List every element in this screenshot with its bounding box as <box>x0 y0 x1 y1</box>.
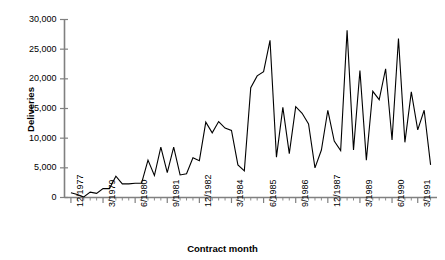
x-tick-label: 3/1979 <box>107 179 117 207</box>
x-tick-label: 3/1984 <box>235 179 245 207</box>
y-axis-title: Deliveries <box>25 70 36 150</box>
y-tick-label: 0 <box>51 192 56 202</box>
x-tick-label: 9/1981 <box>171 179 181 207</box>
chart-plot-area <box>0 0 445 260</box>
x-tick-label: 3/1989 <box>364 179 374 207</box>
x-tick-label: 12/1982 <box>203 174 213 207</box>
y-tick-label: 25,000 <box>29 44 57 54</box>
y-tick-label: 30,000 <box>29 14 57 24</box>
delivery-line-chart: 05,00010,00015,00020,00025,00030,000 12/… <box>0 0 445 260</box>
x-tick-label: 6/1980 <box>139 179 149 207</box>
x-axis-title: Contract month <box>0 243 445 254</box>
x-tick-label: 6/1985 <box>268 179 278 207</box>
axis-lines <box>65 19 438 198</box>
x-tick-label: 12/1977 <box>75 174 85 207</box>
x-tick-label: 12/1987 <box>332 174 342 207</box>
x-tick-label: 3/1991 <box>422 179 432 207</box>
x-axis-ticks <box>71 198 431 204</box>
y-tick-label: 5,000 <box>34 162 57 172</box>
data-series-line <box>71 30 431 197</box>
x-tick-label: 6/1990 <box>396 179 406 207</box>
x-tick-label: 9/1986 <box>300 179 310 207</box>
